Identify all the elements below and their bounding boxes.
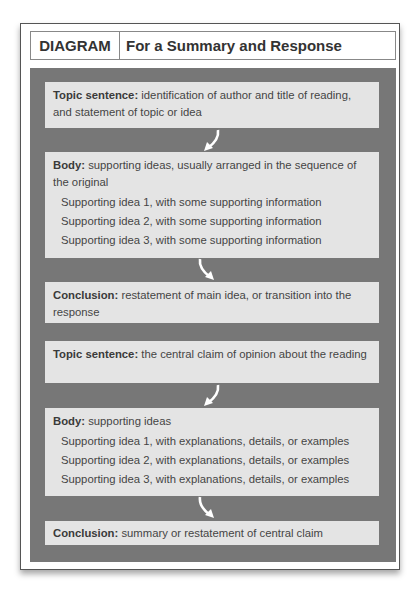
box-label: Topic sentence: <box>53 348 138 360</box>
box-label: Conclusion: <box>53 289 118 301</box>
diagram-tag: DIAGRAM <box>31 32 120 59</box>
supporting-idea-2: Supporting idea 2, with explanations, de… <box>53 451 371 470</box>
box-text: supporting ideas <box>88 415 171 427</box>
response-conclusion-box: Conclusion: summary or restatement of ce… <box>45 521 379 545</box>
box-text: summary or restatement of central claim <box>121 527 323 539</box>
box-label: Conclusion: <box>53 527 118 539</box>
box-label: Body: <box>53 159 85 171</box>
box-text: the central claim of opinion about the r… <box>141 348 366 360</box>
box-text: supporting ideas, usually arranged in th… <box>53 159 356 188</box>
curved-arrow-down-left-icon <box>202 129 226 153</box>
summary-topic-sentence-box: Topic sentence: identification of author… <box>45 82 379 128</box>
box-label: Topic sentence: <box>53 89 138 101</box>
summary-body-box: Body: supporting ideas, usually arranged… <box>45 152 379 258</box>
supporting-idea-3: Supporting idea 3, with some supporting … <box>53 231 371 250</box>
response-topic-sentence-box: Topic sentence: the central claim of opi… <box>45 341 379 383</box>
diagram-header: DIAGRAM For a Summary and Response <box>30 31 396 60</box>
supporting-idea-1: Supporting idea 1, with explanations, de… <box>53 432 371 451</box>
summary-conclusion-box: Conclusion: restatement of main idea, or… <box>45 282 379 323</box>
supporting-idea-2: Supporting idea 2, with some supporting … <box>53 212 371 231</box>
response-body-box: Body: supporting ideas Supporting idea 1… <box>45 408 379 496</box>
curved-arrow-down-left-icon <box>202 384 226 408</box>
curved-arrow-down-right-icon <box>192 258 216 282</box>
diagram-panel: Topic sentence: identification of author… <box>30 68 396 562</box>
box-label: Body: <box>53 415 85 427</box>
diagram-title: For a Summary and Response <box>120 37 342 54</box>
supporting-idea-3: Supporting idea 3, with explanations, de… <box>53 470 371 489</box>
supporting-idea-1: Supporting idea 1, with some supporting … <box>53 193 371 212</box>
curved-arrow-down-right-icon <box>192 496 216 520</box>
